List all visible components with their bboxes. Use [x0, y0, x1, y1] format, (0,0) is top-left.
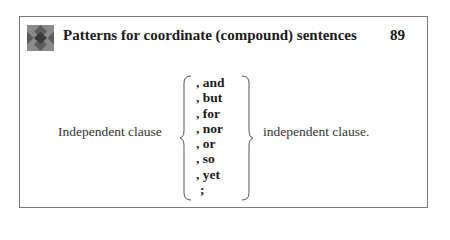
- connector-but: , but: [196, 90, 225, 105]
- section-title: Patterns for coordinate (compound) sente…: [63, 28, 363, 42]
- right-clause-label: independent clause.: [263, 124, 369, 140]
- right-brace-icon: [240, 74, 254, 202]
- connector-nor: , nor: [196, 121, 225, 136]
- connector-list: , and , but , for , nor , or , so , yet …: [196, 75, 225, 197]
- connector-or: , or: [196, 136, 225, 151]
- connector-so: , so: [196, 151, 225, 166]
- connector-for: , for: [196, 106, 225, 121]
- connector-yet: , yet: [196, 167, 225, 182]
- diamond-pattern-icon: [27, 25, 54, 51]
- page-number: 89: [390, 28, 405, 42]
- connector-and: , and: [196, 75, 225, 90]
- connector-semicolon: ;: [196, 182, 225, 197]
- left-brace-icon: [179, 74, 193, 202]
- left-clause-label: Independent clause: [58, 124, 162, 140]
